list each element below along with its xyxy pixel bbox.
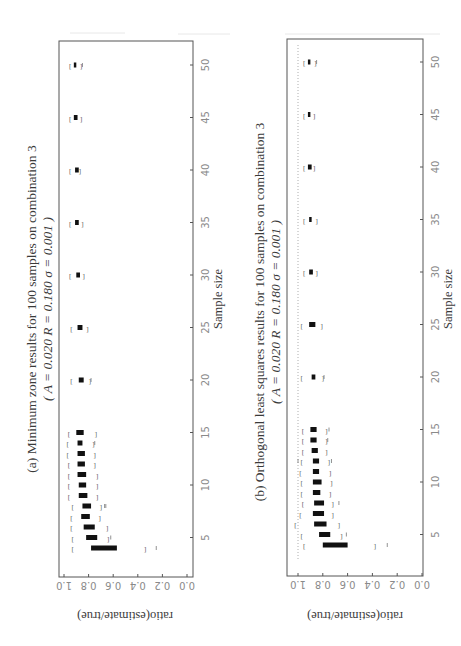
whisker-lower-ratio: ] <box>340 532 342 540</box>
box-n-5: [] <box>71 535 110 543</box>
sample-size-tick-label: 40 <box>430 161 441 174</box>
sample-size-tick-label: 5 <box>200 534 211 540</box>
box-n-11: [] <box>299 469 331 477</box>
box-n-15: [] <box>302 427 329 435</box>
box-iqr <box>78 441 83 446</box>
whisker-upper-ratio: [ <box>71 545 74 553</box>
panel-a-subtitle: ( A = 0.020 R = 0.180 σ = 0.001 ) <box>40 217 55 401</box>
box-n-6: [] <box>70 524 108 532</box>
whisker-lower-ratio: ] <box>328 458 330 466</box>
whisker-upper-ratio: [ <box>68 493 71 501</box>
whisker-lower-ratio: ] <box>86 325 88 333</box>
box-iqr <box>78 462 85 467</box>
whisker-lower-ratio: ] <box>322 374 324 382</box>
whisker-lower-ratio: ] <box>325 437 327 445</box>
ratio-tick-label: 0.2 <box>154 580 170 591</box>
panel-a-xlabel: Sample size <box>211 269 225 330</box>
whisker-lower-ratio: ] <box>325 448 327 456</box>
box-iqr <box>91 546 117 551</box>
whisker-lower-ratio: ] <box>79 167 81 175</box>
whisker-lower-ratio: ] <box>96 493 98 501</box>
box-iqr <box>86 535 97 540</box>
whisker-upper-ratio: [ <box>68 472 71 480</box>
box-iqr <box>313 511 324 516</box>
whisker-upper-ratio: [ <box>302 448 305 456</box>
box-iqr <box>81 514 90 519</box>
sample-size-tick-label: 10 <box>430 476 441 489</box>
whisker-upper-ratio: [ <box>302 437 305 445</box>
figure-page: [][][][][][][][][][][][][][][][][][][] 0… <box>0 0 461 646</box>
panel-b-subtitle: ( A = 0.020 R = 0.180 σ = 0.001 ) <box>268 220 283 404</box>
whisker-upper-ratio: [ <box>68 482 71 490</box>
box-n-15: [] <box>68 430 97 438</box>
whisker-lower-ratio: ] <box>332 511 334 519</box>
whisker-lower-ratio: ] <box>315 269 317 277</box>
box-iqr <box>313 469 319 474</box>
box-n-4: [] <box>71 545 156 553</box>
sample-size-tick-label: 10 <box>200 479 211 492</box>
ratio-tick-label: 0.8 <box>315 579 331 590</box>
whisker-lower-ratio: ] <box>320 322 322 330</box>
whisker-lower-ratio: ] <box>106 524 108 532</box>
whisker-upper-ratio: [ <box>301 479 304 487</box>
whisker-lower-ratio: ] <box>94 451 96 459</box>
panel-b-ylabel: ratio(estimate/true) <box>307 609 403 623</box>
whisker-lower-ratio: ] <box>329 490 331 498</box>
box-iqr <box>308 165 312 170</box>
panel-b-xlabel: Sample size <box>441 269 455 330</box>
whisker-lower-ratio: ] <box>80 115 82 123</box>
box-n-30: [] <box>69 272 85 280</box>
box-n-40: [] <box>303 164 315 172</box>
whisker-lower-ratio: ] <box>315 217 317 225</box>
whisker-lower-ratio: ] <box>83 272 85 280</box>
panel-a-ratio-axis: 0.00.20.40.60.81.0 <box>56 574 195 591</box>
panel-b-title: (b) Orthogonal least squares results for… <box>252 122 267 501</box>
box-iqr <box>74 115 78 120</box>
sample-size-tick-label: 15 <box>200 426 211 439</box>
panel-a-ylabel: ratio(estimate/true) <box>77 609 173 623</box>
whisker-upper-ratio: [ <box>69 272 72 280</box>
box-n-50: [] <box>69 62 82 70</box>
sample-size-tick-label: 25 <box>200 321 211 334</box>
box-n-40: [] <box>69 167 81 175</box>
whisker-lower-ratio: ] <box>329 469 331 477</box>
box-n-35: [] <box>69 220 84 228</box>
whisker-upper-ratio: [ <box>299 511 302 519</box>
whisker-lower-ratio: ] <box>144 545 146 553</box>
box-iqr <box>323 543 348 548</box>
ratio-tick-label: 0.2 <box>389 579 405 590</box>
whisker-upper-ratio: [ <box>303 59 306 67</box>
whisker-upper-ratio: [ <box>299 469 302 477</box>
whisker-upper-ratio: [ <box>68 461 71 469</box>
whisker-lower-ratio: ] <box>330 479 332 487</box>
box-n-12: [] <box>68 461 96 469</box>
panel-a-boxes: [][][][][][][][][][][][][][][][][][][] <box>67 62 157 553</box>
box-n-25: [] <box>70 325 88 333</box>
whisker-upper-ratio: [ <box>301 490 304 498</box>
ratio-tick-label: 0.6 <box>105 580 121 591</box>
whisker-lower-ratio: ] <box>338 521 340 529</box>
box-iqr <box>84 525 95 530</box>
ratio-tick-label: 1.0 <box>56 580 72 591</box>
sample-size-tick-label: 20 <box>200 374 211 387</box>
box-iqr <box>312 448 318 453</box>
sample-size-tick-label: 35 <box>430 213 441 226</box>
panel-b-orthogonal-least-squares: [][][][][][][][][][][][][][][][][][][] 0… <box>252 39 455 623</box>
ratio-tick-label: 0.4 <box>364 579 380 590</box>
box-iqr <box>319 532 330 537</box>
whisker-upper-ratio: [ <box>69 115 72 123</box>
figure-svg: [][][][][][][][][][][][][][][][][][][] 0… <box>0 0 461 646</box>
whisker-upper-ratio: [ <box>301 322 304 330</box>
whisker-upper-ratio: [ <box>302 500 305 508</box>
whisker-lower-ratio: ] <box>374 542 376 550</box>
whisker-upper-ratio: [ <box>70 524 73 532</box>
whisker-upper-ratio: [ <box>303 542 306 550</box>
box-iqr <box>314 501 324 506</box>
box-n-12: [] <box>298 458 331 466</box>
whisker-upper-ratio: [ <box>301 374 304 382</box>
sample-size-tick-label: 45 <box>200 111 211 124</box>
ratio-tick-label: 0.0 <box>414 579 430 590</box>
box-iqr <box>310 438 316 443</box>
box-n-7: [] <box>299 511 334 519</box>
panel-b-frame <box>287 39 423 576</box>
